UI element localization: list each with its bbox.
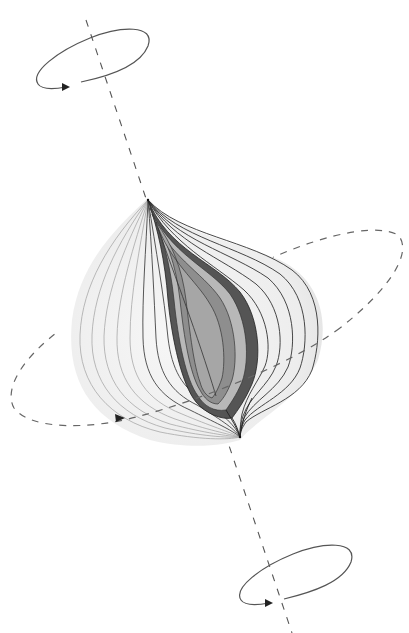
bottom-ring-arrow-icon (265, 599, 273, 607)
field-diagram (0, 0, 409, 633)
top-rotation-ring (37, 29, 150, 91)
top-ring-arrow-icon (62, 83, 70, 91)
top-cusp (147, 199, 149, 201)
diagram-canvas (0, 0, 409, 633)
bottom-cusp (239, 436, 241, 438)
bottom-rotation-ring (240, 545, 352, 607)
